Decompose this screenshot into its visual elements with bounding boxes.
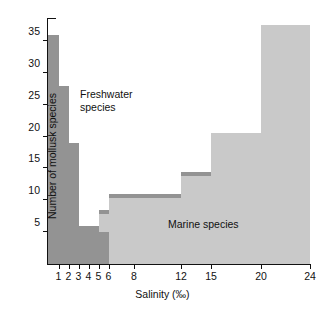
x-tick-label: 5 xyxy=(96,271,102,282)
x-tick xyxy=(109,264,110,269)
x-tick xyxy=(261,264,262,269)
y-tick-label: 30 xyxy=(28,58,40,69)
x-tick-label: 20 xyxy=(255,271,267,282)
x-tick-label: 8 xyxy=(131,271,137,282)
y-axis-top-stub xyxy=(47,18,56,19)
x-tick xyxy=(211,264,212,269)
bar xyxy=(99,232,109,264)
bar xyxy=(79,226,99,264)
y-tick-label: 35 xyxy=(28,26,40,37)
x-tick-label: 15 xyxy=(205,271,217,282)
x-tick-label: 1 xyxy=(56,271,62,282)
bar-cap xyxy=(99,210,109,214)
y-axis-title: Number of mollusk species xyxy=(46,56,58,256)
x-tick-label: 6 xyxy=(106,271,112,282)
y-tick-label: 25 xyxy=(28,90,40,101)
x-tick-label: 12 xyxy=(175,271,187,282)
bar xyxy=(69,143,79,264)
annotation-freshwater-species: Freshwater species xyxy=(80,88,133,114)
bar xyxy=(211,133,261,264)
x-tick xyxy=(310,264,311,269)
y-tick-label: 10 xyxy=(28,185,40,196)
x-tick-label: 24 xyxy=(304,271,316,282)
x-tick xyxy=(89,264,90,269)
x-tick-label: 3 xyxy=(76,271,82,282)
y-tick-label: 15 xyxy=(28,153,40,164)
y-tick-label: 5 xyxy=(34,217,40,228)
x-tick xyxy=(59,264,60,269)
x-tick xyxy=(181,264,182,269)
bar xyxy=(59,86,69,264)
x-tick xyxy=(99,264,100,269)
x-axis-title: Salinity (‰) xyxy=(0,288,325,300)
x-tick xyxy=(134,264,135,269)
y-tick-label: 20 xyxy=(28,121,40,132)
x-tick-label: 2 xyxy=(66,271,72,282)
bar-cap xyxy=(181,172,211,176)
x-tick xyxy=(79,264,80,269)
y-tick xyxy=(43,40,48,41)
mollusk-salinity-chart: 5101520253035 123456812152024 Freshwater… xyxy=(0,0,325,310)
annotation-marine-species: Marine species xyxy=(168,218,239,231)
x-axis-line xyxy=(47,264,311,265)
bar xyxy=(261,25,310,264)
x-tick-label: 4 xyxy=(86,271,92,282)
x-tick xyxy=(69,264,70,269)
bar-cap xyxy=(109,194,182,198)
